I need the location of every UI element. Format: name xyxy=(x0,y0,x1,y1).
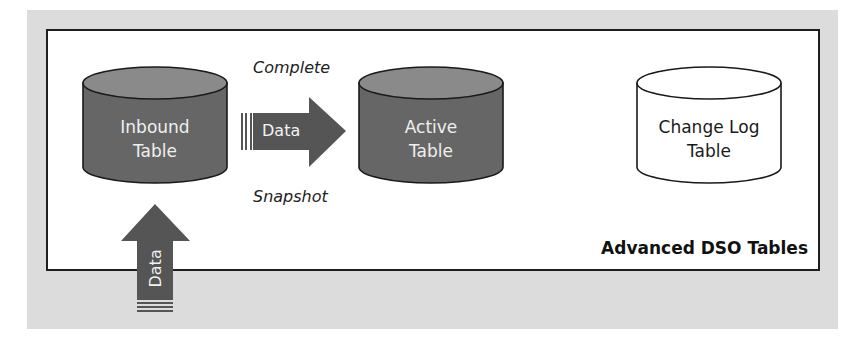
inbound-table-label-line1: Inbound xyxy=(83,115,227,139)
active-table-label-line2: Table xyxy=(359,139,503,163)
change-log-table-label: Change Log Table xyxy=(637,115,781,163)
inbound-table-label: Inbound Table xyxy=(83,115,227,163)
active-table-label: Active Table xyxy=(359,115,503,163)
frame-title: Advanced DSO Tables xyxy=(601,238,808,258)
inbound-table-label-line2: Table xyxy=(83,139,227,163)
load-arrow-label: Data xyxy=(146,250,165,288)
change-log-table-label-line2: Table xyxy=(637,139,781,163)
active-table-label-line1: Active xyxy=(359,115,503,139)
change-log-table-label-line1: Change Log xyxy=(637,115,781,139)
diagram-canvas: Inbound Table Active Table Change Log Ta… xyxy=(0,0,864,339)
complete-annotation: Complete xyxy=(253,58,330,77)
diagram-shapes xyxy=(0,0,864,339)
activation-arrow-label: Data xyxy=(262,121,300,140)
snapshot-annotation: Snapshot xyxy=(253,187,328,206)
